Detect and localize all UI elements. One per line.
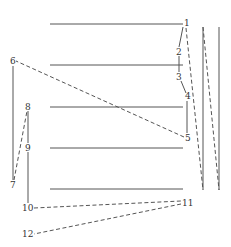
point-label-10: 10	[22, 203, 34, 213]
segment-5-6	[16, 61, 184, 137]
segment-1-2	[179, 27, 183, 47]
point-label-7: 7	[10, 180, 16, 190]
point-label-4: 4	[185, 91, 191, 101]
point-label-9: 9	[25, 143, 31, 153]
point-label-6: 6	[10, 56, 16, 66]
point-label-1: 1	[184, 18, 190, 28]
point-label-11: 11	[182, 198, 193, 208]
right-strokes	[186, 27, 219, 190]
path-segments	[13, 27, 187, 234]
point-label-12: 12	[22, 229, 33, 239]
segment-10-11	[34, 201, 181, 208]
point-label-5: 5	[185, 133, 191, 143]
stroke-order-diagram: 123456789101112	[0, 0, 231, 247]
point-label-2: 2	[176, 47, 182, 57]
dashed-stroke	[203, 27, 219, 190]
point-label-8: 8	[25, 102, 31, 112]
point-label-3: 3	[176, 72, 182, 82]
segment-11-12	[34, 204, 181, 234]
dashed-stroke	[186, 28, 203, 190]
